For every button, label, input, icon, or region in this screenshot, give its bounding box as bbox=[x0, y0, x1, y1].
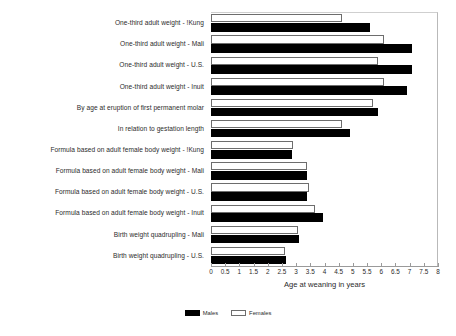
weaning-age-bar-chart: One-third adult weight - !KungOne-third … bbox=[0, 0, 456, 336]
category-label: One-third adult weight - Inuit bbox=[0, 75, 208, 96]
bar-row bbox=[211, 34, 437, 55]
x-axis-tick-label: 5.5 bbox=[363, 268, 372, 275]
x-axis-tick-label: 4.5 bbox=[334, 268, 343, 275]
x-axis-tick-label: 5 bbox=[351, 268, 355, 275]
bar-males bbox=[211, 23, 370, 32]
bar-row bbox=[211, 140, 437, 161]
x-axis-tick-label: 0.5 bbox=[221, 268, 230, 275]
bar-row bbox=[211, 119, 437, 140]
category-label: Formula based on adult female body weigh… bbox=[0, 139, 208, 160]
x-axis-tick-label: 8 bbox=[436, 268, 440, 275]
bar-males bbox=[211, 108, 378, 117]
bar-males bbox=[211, 86, 407, 95]
x-axis-tick-label: 1.5 bbox=[249, 268, 258, 275]
x-axis-line bbox=[211, 266, 438, 267]
category-label: By age at eruption of first permanent mo… bbox=[0, 97, 208, 118]
bar-row bbox=[211, 161, 437, 182]
category-label: One-third adult weight - U.S. bbox=[0, 54, 208, 75]
bar-females bbox=[211, 226, 298, 234]
bar-males bbox=[211, 129, 350, 138]
x-axis-tick-label: 1 bbox=[238, 268, 242, 275]
x-axis-tick-label: 3.5 bbox=[306, 268, 315, 275]
bar-females bbox=[211, 120, 342, 128]
bar-females bbox=[211, 35, 384, 43]
x-axis-tick-label: 6.5 bbox=[391, 268, 400, 275]
bar-males bbox=[211, 65, 412, 74]
bar-rows bbox=[211, 13, 437, 266]
x-axis-tick-labels: 00.511.522.533.544.555.566.577.58 bbox=[211, 268, 438, 278]
x-axis-tick-label: 3 bbox=[294, 268, 298, 275]
bar-males bbox=[211, 44, 412, 53]
bar-females bbox=[211, 78, 384, 86]
legend-swatch-males bbox=[185, 310, 200, 316]
plot-area bbox=[211, 12, 438, 266]
x-axis-tick-label: 2.5 bbox=[277, 268, 286, 275]
bar-males bbox=[211, 150, 292, 159]
x-axis-tick bbox=[438, 263, 439, 267]
bar-row bbox=[211, 55, 437, 76]
x-axis-tick-label: 2 bbox=[266, 268, 270, 275]
legend-swatch-females bbox=[231, 310, 246, 316]
bar-females bbox=[211, 247, 285, 255]
bar-row bbox=[211, 13, 437, 34]
category-label: Birth weight quadrupling - U.S. bbox=[0, 245, 208, 266]
category-label: Birth weight quadrupling - Mali bbox=[0, 224, 208, 245]
bar-row bbox=[211, 203, 437, 224]
category-axis-labels: One-third adult weight - !KungOne-third … bbox=[0, 12, 208, 266]
category-label: Formula based on adult female body weigh… bbox=[0, 181, 208, 202]
chart-legend: Males Females bbox=[0, 310, 456, 316]
bar-males bbox=[211, 192, 307, 201]
bar-females bbox=[211, 141, 293, 149]
x-axis-tick-label: 7.5 bbox=[419, 268, 428, 275]
x-axis-tick-label: 0 bbox=[209, 268, 213, 275]
bar-row bbox=[211, 98, 437, 119]
bar-males bbox=[211, 171, 307, 180]
category-label: Formula based on adult female body weigh… bbox=[0, 160, 208, 181]
category-label: One-third adult weight - Mali bbox=[0, 33, 208, 54]
legend-item-females: Females bbox=[231, 310, 271, 316]
x-axis-tick-label: 4 bbox=[323, 268, 327, 275]
category-label: In relation to gestation length bbox=[0, 118, 208, 139]
category-label: Formula based on adult female body weigh… bbox=[0, 202, 208, 223]
bar-row bbox=[211, 76, 437, 97]
bar-females bbox=[211, 205, 315, 213]
bar-females bbox=[211, 183, 309, 191]
x-axis-tick-label: 7 bbox=[408, 268, 412, 275]
bar-row bbox=[211, 182, 437, 203]
bar-males bbox=[211, 235, 299, 244]
category-label: One-third adult weight - !Kung bbox=[0, 12, 208, 33]
legend-label-females: Females bbox=[249, 310, 271, 316]
bar-females bbox=[211, 99, 373, 107]
x-axis-title: Age at weaning in years bbox=[211, 280, 438, 289]
bar-females bbox=[211, 162, 307, 170]
x-axis-tick-label: 6 bbox=[379, 268, 383, 275]
bar-females bbox=[211, 57, 378, 65]
bar-row bbox=[211, 225, 437, 246]
bar-males bbox=[211, 213, 323, 222]
legend-label-males: Males bbox=[203, 310, 218, 316]
legend-item-males: Males bbox=[185, 310, 218, 316]
bar-females bbox=[211, 14, 342, 22]
